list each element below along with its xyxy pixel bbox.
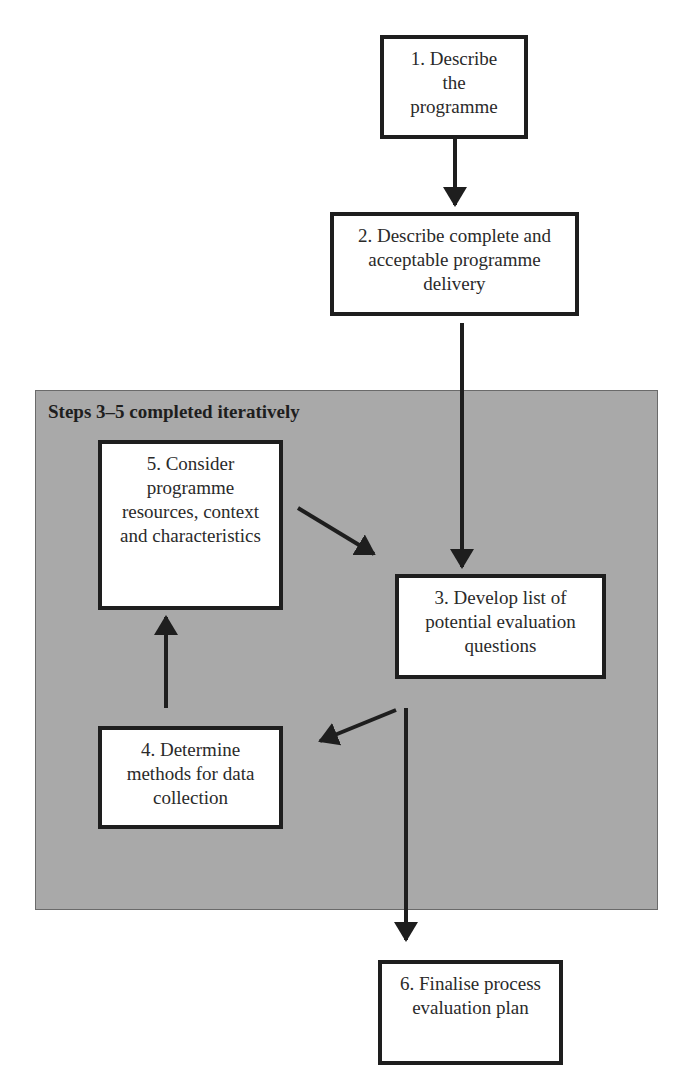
arrow-3-to-4 [320, 710, 396, 741]
flow-arrows [0, 0, 690, 1092]
arrow-5-to-3 [298, 508, 374, 554]
